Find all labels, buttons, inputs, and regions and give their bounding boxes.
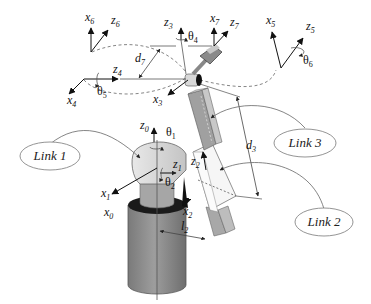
link1-label: Link 1 xyxy=(33,148,67,163)
z3-label: z3 xyxy=(163,15,173,31)
z6-axis xyxy=(91,30,108,52)
z6-label: z6 xyxy=(110,13,120,29)
link3-callout: Link 3 xyxy=(211,106,336,157)
x2-label: x2 xyxy=(182,204,192,220)
x4-axis xyxy=(69,79,84,94)
z0-label: z0 xyxy=(139,118,149,134)
theta5-label: θ5 xyxy=(97,84,107,100)
z5-axis xyxy=(281,38,303,68)
x1-label: x1 xyxy=(100,186,110,202)
x5-axis xyxy=(272,32,281,68)
z4-label: z4 xyxy=(112,62,122,78)
d7-label: d7 xyxy=(135,51,146,67)
x7-label: x7 xyxy=(209,11,220,27)
x3-label: x3 xyxy=(152,92,162,108)
robot-arm-diagram: Link 1 Link 3 Link 2 x6 z6 z3 θ4 x7 z7 x… xyxy=(0,0,371,304)
x0-label: x0 xyxy=(103,205,113,221)
x4-label: x4 xyxy=(66,93,76,109)
link2-label: Link 2 xyxy=(307,214,341,229)
d3-label: d3 xyxy=(246,138,256,154)
theta4-label: θ4 xyxy=(188,29,198,45)
x5-label: x5 xyxy=(265,13,275,29)
link3-body xyxy=(188,88,222,150)
z7-label: z7 xyxy=(229,15,240,31)
wrist-gripper xyxy=(185,44,222,86)
z7-axis xyxy=(214,31,228,46)
link1-callout: Link 1 xyxy=(20,130,140,170)
theta1-label: θ1 xyxy=(166,125,176,141)
link2-callout: Link 2 xyxy=(220,163,353,236)
link3-label: Link 3 xyxy=(288,135,322,150)
x6-label: x6 xyxy=(84,10,94,26)
z5-label: z5 xyxy=(305,19,315,35)
theta6-label: θ6 xyxy=(303,53,313,69)
